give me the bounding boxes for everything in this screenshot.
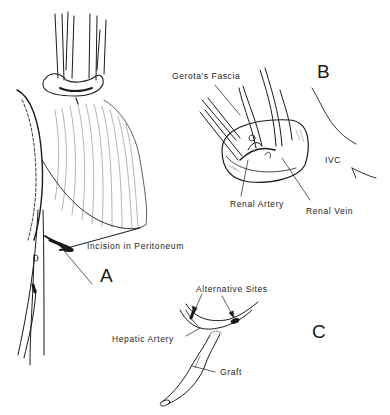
label-renal-vein: Renal Vein xyxy=(306,206,353,216)
panel-a-forceps xyxy=(18,210,44,365)
label-alternative-sites: Alternative Sites xyxy=(196,284,268,294)
panel-c-leaders xyxy=(186,294,234,372)
panel-b-hilum xyxy=(200,68,308,182)
label-renal-artery: Renal Artery xyxy=(230,199,284,209)
panel-label-a: A xyxy=(100,265,113,287)
panel-a-retractor xyxy=(55,12,106,80)
label-hepatic-artery: Hepatic Artery xyxy=(112,334,174,344)
panel-label-c: C xyxy=(312,321,326,343)
panel-label-b: B xyxy=(317,61,330,83)
panel-a-tissue-ring xyxy=(43,74,103,104)
label-incision-in-peritoneum: Incision in Peritoneum xyxy=(87,241,184,251)
label-gerotas-fascia: Gerota's Fascia xyxy=(172,71,240,81)
label-ivc: IVC xyxy=(325,155,341,165)
panel-b-ivc xyxy=(312,88,376,178)
panel-a-leader xyxy=(60,246,92,284)
label-graft: Graft xyxy=(220,367,242,377)
panel-c-vessel xyxy=(159,302,258,407)
surgical-illustration: Incision in Peritoneum A Gerota's Fascia… xyxy=(0,0,390,415)
panel-a-organ xyxy=(17,90,147,251)
